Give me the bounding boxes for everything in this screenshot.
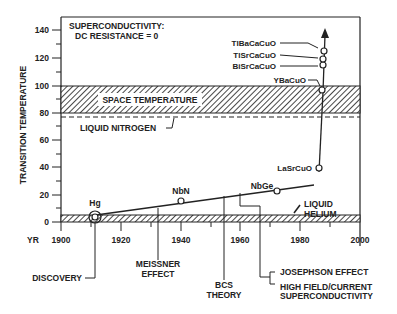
point-hg xyxy=(92,214,98,220)
chart-title: SUPERCONDUCTIVITY: DC RESISTANCE = 0 xyxy=(69,21,164,41)
y-tick-100: 100 xyxy=(35,81,49,91)
label-meissner-2: EFFECT xyxy=(141,269,175,279)
label-meissner-1: MEISSNER xyxy=(136,259,180,269)
y-tick-40: 40 xyxy=(40,162,50,172)
liquid-nitrogen-label: LIQUID NITROGEN xyxy=(80,123,156,133)
y-tick-60: 60 xyxy=(40,135,50,145)
point-ybacuo xyxy=(319,87,325,93)
label-nbge: NbGe xyxy=(251,181,274,191)
x-tick-1900: 1900 xyxy=(52,235,71,245)
label-nbn: NbN xyxy=(172,186,189,196)
x-tick-1920: 1920 xyxy=(112,235,131,245)
y-tick-20: 20 xyxy=(40,190,50,200)
x-tick-1960: 1960 xyxy=(231,235,250,245)
x-tick-1980: 1980 xyxy=(291,235,310,245)
label-tlbacacuo: TlBaCaCuO xyxy=(232,39,276,48)
label-tlsrcacuo: TlSrCaCuO xyxy=(233,51,276,60)
point-tlsrcacuo xyxy=(320,56,326,62)
point-bisrcacuo xyxy=(320,62,326,68)
y-axis: 0 20 40 60 80 100 120 140 TRANSITION TEM… xyxy=(18,25,61,227)
space-temperature-band: SPACE TEMPERATURE xyxy=(61,86,360,113)
point-nbge xyxy=(274,188,280,194)
y-tick-140: 140 xyxy=(35,25,49,35)
label-hg: Hg xyxy=(89,198,100,208)
point-nbn xyxy=(178,198,184,204)
label-bcs-1: BCS xyxy=(215,280,233,290)
point-tlbacacuo xyxy=(321,48,327,54)
x-tick-1940: 1940 xyxy=(172,235,191,245)
title-line-2: DC RESISTANCE = 0 xyxy=(75,31,158,41)
label-bisrcacuo: BiSrCaCuO xyxy=(232,62,276,71)
y-tick-120: 120 xyxy=(35,53,49,63)
label-ybacuo: YBaCuO xyxy=(274,76,306,85)
liquid-helium-band: LIQUID HELIUM xyxy=(61,199,360,222)
x-axis-label: YR xyxy=(27,235,39,245)
x-axis: YR 1900 1920 1940 1960 1980 2000 xyxy=(27,222,370,245)
y-tick-0: 0 xyxy=(44,217,49,227)
label-discovery: DISCOVERY xyxy=(32,273,82,283)
label-bcs-2: THEORY xyxy=(206,290,241,300)
liquid-nitrogen-line: LIQUID NITROGEN xyxy=(61,117,360,133)
title-line-1: SUPERCONDUCTIVITY: xyxy=(69,21,164,31)
label-highfield-2: SUPERCONDUCTIVITY xyxy=(280,291,373,301)
y-axis-label: TRANSITION TEMPERATURE xyxy=(18,65,28,184)
space-temperature-label: SPACE TEMPERATURE xyxy=(102,95,197,105)
x-tick-2000: 2000 xyxy=(351,235,370,245)
point-lasrcuo xyxy=(316,165,322,171)
liquid-helium-label-1: LIQUID xyxy=(304,199,333,209)
arrow-up-icon xyxy=(321,28,329,38)
liquid-helium-label-2: HELIUM xyxy=(304,209,337,219)
y-tick-80: 80 xyxy=(40,108,50,118)
label-lasrcuo: LaSrCuO xyxy=(277,164,312,173)
label-josephson: JOSEPHSON EFFECT xyxy=(280,267,369,277)
superconductivity-chart: SPACE TEMPERATURE LIQUID NITROGEN LIQUID… xyxy=(0,0,397,314)
